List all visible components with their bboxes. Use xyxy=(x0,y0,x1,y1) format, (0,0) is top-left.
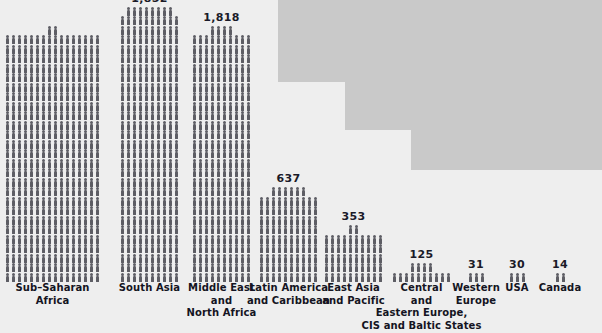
bar-column-sub-saharan-africa[interactable] xyxy=(4,26,101,283)
person-figure-icon xyxy=(192,197,197,206)
person-figure-icon xyxy=(41,244,46,253)
label-line: CIS and Baltic States xyxy=(360,320,483,333)
person-figure-icon xyxy=(138,263,143,272)
person-figure-icon xyxy=(17,254,22,263)
person-figure-icon xyxy=(17,244,22,253)
person-figure-icon xyxy=(204,73,209,82)
person-figure-icon xyxy=(59,140,64,149)
bar-column-east-asia-pacific[interactable]: 353 xyxy=(322,211,385,282)
person-figure-icon xyxy=(246,263,251,272)
person-figure-icon xyxy=(228,187,233,196)
person-figure-icon xyxy=(5,254,10,263)
bar-column-south-asia[interactable]: 1,852 xyxy=(118,0,181,282)
person-figure-icon xyxy=(234,140,239,149)
person-figure-icon xyxy=(144,26,149,35)
person-figure-icon xyxy=(138,26,143,35)
person-figure-icon xyxy=(192,235,197,244)
person-figure-icon xyxy=(53,225,58,234)
bar-column-western-europe[interactable]: 31 xyxy=(464,259,488,283)
figure-group-east-asia-pacific xyxy=(322,225,385,282)
person-figure-icon xyxy=(41,206,46,215)
person-figure-icon xyxy=(192,273,197,282)
person-figure-icon xyxy=(240,92,245,101)
person-figure-icon xyxy=(378,235,383,244)
person-figure-icon xyxy=(342,235,347,244)
bar-column-middle-east-north-africa[interactable]: 1,818 xyxy=(190,12,253,283)
person-figure-icon xyxy=(89,244,94,253)
person-figure-icon xyxy=(17,35,22,44)
person-figure-icon xyxy=(222,140,227,149)
person-figure-icon xyxy=(192,35,197,44)
person-figure-icon xyxy=(95,45,100,54)
person-figure-icon xyxy=(77,111,82,120)
person-figure-icon xyxy=(222,64,227,73)
person-figure-icon xyxy=(416,263,421,272)
person-figure-icon xyxy=(168,216,173,225)
person-figure-icon xyxy=(144,16,149,25)
person-figure-icon xyxy=(95,178,100,187)
person-figure-icon xyxy=(289,263,294,272)
person-figure-icon xyxy=(246,83,251,92)
person-figure-icon xyxy=(35,54,40,63)
person-figure-icon xyxy=(348,244,353,253)
person-figure-icon xyxy=(204,130,209,139)
person-figure-icon xyxy=(144,7,149,16)
person-figure-icon xyxy=(47,178,52,187)
person-figure-icon xyxy=(83,111,88,120)
person-figure-icon xyxy=(301,235,306,244)
person-figure-icon xyxy=(95,111,100,120)
person-figure-icon xyxy=(366,235,371,244)
person-figure-icon xyxy=(29,140,34,149)
person-figure-icon xyxy=(126,121,131,130)
person-figure-icon xyxy=(150,64,155,73)
person-figure-icon xyxy=(11,121,16,130)
person-figure-icon xyxy=(41,54,46,63)
person-figure-icon xyxy=(23,54,28,63)
person-figure-icon xyxy=(348,254,353,263)
person-figure-icon xyxy=(204,140,209,149)
person-figure-icon xyxy=(120,149,125,158)
person-figure-icon xyxy=(23,83,28,92)
bar-column-latin-america-caribbean[interactable]: 637 xyxy=(257,173,320,282)
person-figure-icon xyxy=(83,140,88,149)
bar-column-usa[interactable]: 30 xyxy=(505,259,529,283)
person-figure-icon xyxy=(89,130,94,139)
value-label-usa: 30 xyxy=(509,259,525,270)
person-figure-icon xyxy=(174,225,179,234)
bar-column-central-eastern-europe[interactable]: 125 xyxy=(390,249,453,282)
person-figure-icon xyxy=(71,73,76,82)
person-figure-icon xyxy=(222,159,227,168)
person-figure-icon xyxy=(150,26,155,35)
person-figure-icon xyxy=(138,168,143,177)
figure-group-sub-saharan-africa xyxy=(4,26,101,283)
person-figure-icon xyxy=(234,83,239,92)
person-figure-icon xyxy=(95,35,100,44)
person-figure-icon xyxy=(65,178,70,187)
person-figure-icon xyxy=(23,263,28,272)
person-figure-icon xyxy=(144,64,149,73)
person-figure-icon xyxy=(41,35,46,44)
person-figure-icon xyxy=(89,121,94,130)
person-figure-icon xyxy=(23,45,28,54)
person-figure-icon xyxy=(29,197,34,206)
person-figure-icon xyxy=(210,26,215,35)
person-figure-icon xyxy=(324,244,329,253)
person-figure-icon xyxy=(126,16,131,25)
person-figure-icon xyxy=(59,45,64,54)
person-figure-icon xyxy=(65,83,70,92)
person-figure-icon xyxy=(138,111,143,120)
bar-column-canada[interactable]: 14 xyxy=(548,259,572,283)
person-figure-icon xyxy=(144,121,149,130)
person-figure-icon xyxy=(150,225,155,234)
person-figure-icon xyxy=(301,187,306,196)
person-figure-icon xyxy=(47,111,52,120)
person-figure-icon xyxy=(95,216,100,225)
person-figure-icon xyxy=(289,187,294,196)
person-figure-icon xyxy=(59,130,64,139)
person-figure-icon xyxy=(192,73,197,82)
person-figure-icon xyxy=(5,244,10,253)
person-figure-icon xyxy=(378,273,383,282)
person-figure-icon xyxy=(53,64,58,73)
person-figure-icon xyxy=(156,7,161,16)
person-figure-icon xyxy=(71,178,76,187)
